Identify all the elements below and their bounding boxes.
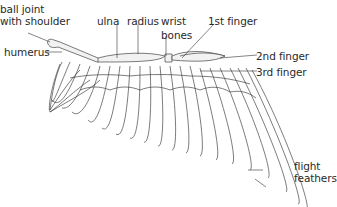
label-second-finger: 2nd finger [256, 50, 309, 62]
label-ball-joint-line1: ball joint [0, 3, 44, 15]
wing-bones-drawing [47, 39, 225, 62]
label-first-finger: 1st finger [208, 15, 257, 27]
label-flight-line1: flight [294, 160, 320, 172]
label-wrist-line2: bones [161, 29, 192, 41]
humerus-bone [47, 39, 99, 62]
label-flight-line2: feathers [294, 172, 337, 184]
label-ulna: ulna [97, 15, 119, 27]
label-third-finger: 3rd finger [256, 66, 307, 78]
ulna-radius-bones [98, 53, 165, 62]
label-ball-joint-line2: with shoulder [0, 15, 70, 27]
label-humerus: humerus [4, 46, 50, 58]
label-wrist-line1: wrist [161, 15, 186, 27]
label-radius: radius [127, 15, 159, 27]
flight-feathers-drawing [49, 62, 307, 207]
